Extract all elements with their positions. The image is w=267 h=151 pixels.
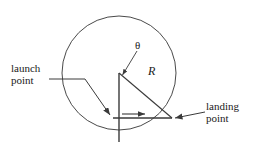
radius-line [119, 73, 172, 118]
theta-label: θ [135, 39, 140, 51]
landing-point-label: landingpoint [206, 100, 239, 124]
launch-label-line2: point [11, 74, 34, 86]
launch-point-label: launchpoint [11, 62, 40, 86]
landing-label-line1: landing [206, 100, 239, 112]
theta-leader-line [123, 51, 138, 75]
landing-label-line2: point [206, 112, 229, 124]
launch-leader-line [49, 79, 110, 115]
projectile-circle-diagram: launchpoint landingpoint θ R [0, 0, 267, 151]
launch-label-line1: launch [11, 62, 40, 74]
landing-leader-line [175, 112, 205, 118]
radius-label: R [148, 65, 155, 77]
